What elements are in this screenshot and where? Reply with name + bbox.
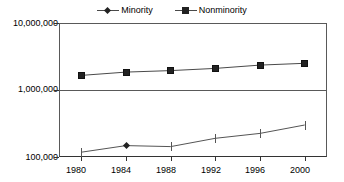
line-chart: Minority Nonminority 10,000,000 1,000,00… — [0, 0, 344, 182]
series-lines — [0, 0, 344, 182]
